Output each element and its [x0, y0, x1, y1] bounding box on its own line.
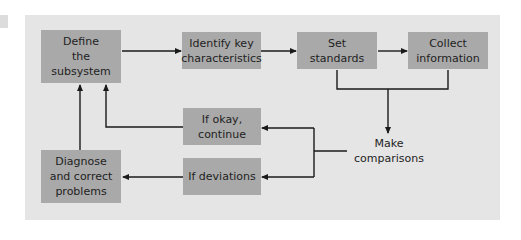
node-collect-information: Collect information — [408, 32, 488, 69]
bracket-set-collect — [337, 70, 448, 89]
node-line: subsystem — [51, 64, 110, 79]
node-line: Set — [310, 36, 365, 51]
node-line: Identify key — [181, 36, 262, 51]
node-line: standards — [310, 51, 365, 66]
node-define-subsystem: Define the subsystem — [41, 30, 121, 83]
node-identify-characteristics: Identify key characteristics — [182, 32, 261, 69]
node-line: Diagnose — [50, 154, 113, 169]
node-line: Define — [51, 34, 110, 49]
node-line: the — [51, 49, 110, 64]
arrow-okay-to-define — [106, 85, 183, 127]
node-line: If deviations — [188, 169, 255, 184]
node-line: If okay, — [198, 112, 246, 127]
node-set-standards: Set standards — [297, 32, 377, 69]
node-line: problems — [50, 184, 113, 199]
node-if-okay-continue: If okay, continue — [183, 108, 261, 145]
node-line: and correct — [50, 169, 113, 184]
node-line: information — [416, 51, 480, 66]
node-if-deviations: If deviations — [183, 158, 261, 195]
node-line: comparisons — [348, 151, 430, 166]
node-line: characteristics — [181, 51, 262, 66]
node-make-comparisons: Make comparisons — [348, 136, 430, 166]
node-line: Collect — [416, 36, 480, 51]
node-line: continue — [198, 127, 246, 142]
node-diagnose-correct: Diagnose and correct problems — [41, 150, 121, 203]
node-line: Make — [348, 136, 430, 151]
